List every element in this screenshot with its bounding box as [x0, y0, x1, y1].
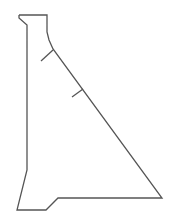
dam-diagram: [0, 0, 187, 219]
slope-tick-mark-lower: [72, 89, 83, 97]
dam-outline: [17, 15, 162, 210]
slope-tick-mark-upper: [41, 50, 53, 61]
